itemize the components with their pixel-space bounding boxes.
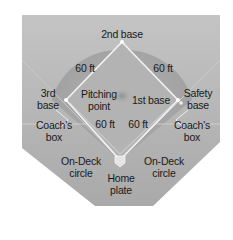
on-deck-circle-left-label: On-Deck circle [61,155,101,179]
home-plate-line1: Home [107,172,134,184]
coach-box-left-line2: box [36,131,72,143]
on-deck-left-line1: On-Deck [61,155,101,167]
second-base-marker [120,40,124,44]
pitching-point-label: Pitching point [81,88,117,112]
coach-box-right-label: Coach's box [174,119,210,143]
coach-box-right-line1: Coach's [174,119,210,131]
distance-1st-home: 60 ft [128,118,147,130]
third-base-line2: base [37,99,59,111]
home-plate-line2: plate [107,184,134,196]
third-base-marker [64,98,68,102]
distance-2nd-1st: 60 ft [153,62,172,74]
first-base-label: 1st base [132,94,170,106]
safety-base-label: Safety base [184,87,213,111]
coach-box-left-label: Coach's box [36,119,72,143]
pitching-point-line1: Pitching [81,88,117,100]
distance-2nd-3rd: 60 ft [75,62,94,74]
coach-box-left-line1: Coach's [36,119,72,131]
safety-base-marker [179,101,183,105]
first-base-marker [176,98,180,102]
distance-3rd-home: 60 ft [95,118,114,130]
on-deck-circle-right-label: On-Deck circle [144,155,184,179]
coach-box-right-line2: box [174,131,210,143]
on-deck-left-line2: circle [61,167,101,179]
safety-base-line1: Safety [184,87,213,99]
on-deck-right-line2: circle [144,167,184,179]
second-base-label: 2nd base [101,28,143,40]
on-deck-right-line1: On-Deck [144,155,184,167]
home-plate-label: Home plate [107,172,134,196]
safety-base-line2: base [184,99,213,111]
third-base-label: 3rd base [37,87,59,111]
third-base-line1: 3rd [37,87,59,99]
pitching-point-line2: point [81,100,117,112]
